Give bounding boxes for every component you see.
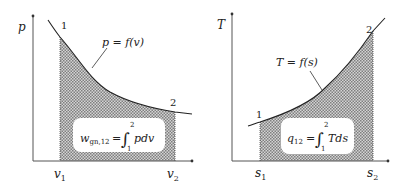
svg-text:=: =: [112, 132, 121, 145]
pv-diagram: p 1 2 p = f(v) v1 v2 wgn,12 = ∫ 2 1 pdv: [18, 15, 193, 183]
s1-tick-label: s1: [255, 166, 266, 182]
v1-tick-label: v1: [54, 167, 66, 183]
pv-point-2: 2: [170, 97, 176, 108]
svg-text:1: 1: [127, 145, 131, 153]
svg-text:1: 1: [321, 145, 325, 153]
v-axis-arrow-icon: [191, 160, 194, 163]
ts-diagram: T 1 2 T = f(s) s1 s2 q12 = ∫ 2 1 Tds: [217, 13, 389, 182]
s2-tick-label: s2: [367, 166, 378, 182]
svg-text:Tds: Tds: [328, 132, 348, 145]
t-axis-label: T: [217, 18, 226, 32]
svg-text:=: =: [306, 132, 315, 145]
svg-text:pdv: pdv: [134, 132, 155, 145]
diagram-canvas: p 1 2 p = f(v) v1 v2 wgn,12 = ∫ 2 1 pdv: [0, 0, 406, 187]
pv-point-1: 1: [61, 20, 67, 31]
v2-tick-label: v2: [167, 167, 179, 183]
pv-curve-leader: [92, 48, 107, 68]
p-axis-label: p: [18, 20, 26, 34]
ts-point-1: 1: [256, 109, 262, 120]
p-axis-arrow-icon: [32, 15, 35, 18]
t-axis-arrow-icon: [231, 13, 234, 16]
pv-curve-label: p = f(v): [102, 36, 144, 49]
svg-text:2: 2: [324, 121, 328, 129]
svg-text:2: 2: [130, 121, 134, 129]
ts-curve-leader: [310, 71, 322, 90]
ts-point-2: 2: [366, 24, 372, 35]
s-axis-arrow-icon: [387, 160, 390, 163]
ts-curve-label: T = f(s): [276, 56, 318, 69]
